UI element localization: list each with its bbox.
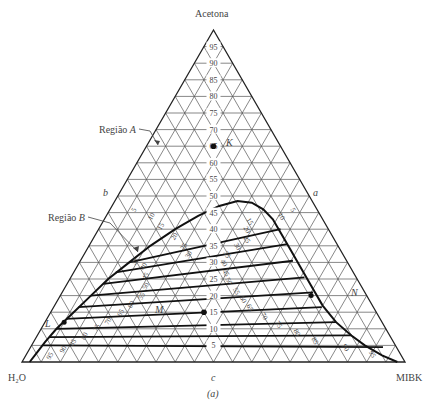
grid-line [309, 279, 357, 362]
point-n-label: N [351, 287, 358, 298]
scale-label: 15 [210, 308, 218, 317]
side-label-a: a [313, 187, 318, 198]
vertex-label-h2o: H₂O [8, 372, 26, 383]
point-k-marker [211, 143, 217, 149]
scale-label: 55 [210, 175, 218, 184]
figure-caption: (a) [207, 388, 219, 399]
grid-line [271, 246, 338, 362]
scale-label: 60 [210, 159, 218, 168]
vertex-label-acetona: Acetona [195, 8, 228, 19]
side-label-c: c [211, 372, 215, 383]
scale-label: 40 [210, 225, 218, 234]
scale-label: 90 [210, 59, 218, 68]
arrow-head-icon [133, 246, 139, 252]
branch-label: 65 [244, 303, 255, 313]
grid-line [233, 213, 319, 362]
branch-label: 50 [223, 276, 234, 286]
point-k-label: K [226, 137, 233, 148]
scale-label: 10 [210, 325, 218, 334]
grid-line [41, 47, 223, 362]
grid-line [204, 47, 386, 362]
region-a-label: Região A [99, 124, 136, 135]
scale-label: 85 [210, 76, 218, 85]
branch-label: 80 [79, 331, 90, 341]
scale-label: 20 [210, 292, 218, 301]
branch-label: 80 [291, 328, 302, 338]
branch-label: 60 [126, 299, 137, 309]
point-n-marker [309, 293, 314, 298]
branch-label: 30 [232, 241, 243, 251]
scale-label: 25 [210, 275, 218, 284]
branch-label: 15 [156, 221, 167, 231]
scale-label: 95 [210, 43, 218, 52]
branch-label: 70 [259, 311, 270, 321]
point-m-label: M [155, 304, 163, 315]
side-label-b: b [103, 187, 108, 198]
scale-label: 30 [210, 258, 218, 267]
branch-label: 75 [92, 322, 103, 332]
branch-label: 20 [242, 225, 253, 235]
scale-label: 50 [210, 192, 218, 201]
point-l-label: L [45, 318, 51, 329]
point-l-marker [62, 320, 67, 325]
scale-label: 5 [212, 341, 216, 350]
branch-label: 95 [45, 351, 56, 361]
scale-label: 75 [210, 109, 218, 118]
scale-label: 80 [210, 92, 218, 101]
arrow-head-icon [154, 140, 160, 145]
region-b-label: Região B [48, 212, 85, 223]
scale-label: 45 [210, 209, 218, 218]
scale-label: 35 [210, 242, 218, 251]
vertex-label-mibk: MIBK [396, 372, 422, 383]
point-m-marker [201, 309, 207, 315]
scale-label: 70 [210, 126, 218, 135]
ternary-diagram: 5101520253035404550556065707580859095 51… [0, 0, 434, 410]
branch-label: 75 [273, 319, 284, 329]
